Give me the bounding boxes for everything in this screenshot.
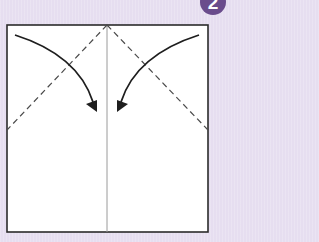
origami-diagram (0, 0, 229, 242)
step-number: 2 (208, 0, 219, 14)
